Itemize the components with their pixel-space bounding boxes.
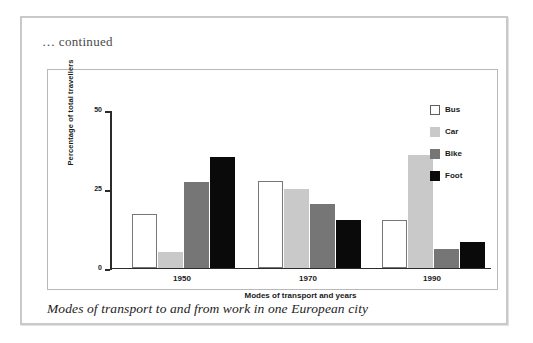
legend-swatch-foot-icon bbox=[430, 171, 440, 181]
bar-1950-bus bbox=[132, 214, 157, 268]
legend-item-bus: Bus bbox=[430, 103, 462, 116]
figure-plot-box: Percentage of total travellers 0 25 50 1… bbox=[47, 69, 498, 290]
bar-1970-car bbox=[284, 189, 309, 268]
y-tick-25: 25 bbox=[105, 190, 110, 192]
bar-1970-foot bbox=[336, 220, 361, 267]
y-tick-label-50: 50 bbox=[94, 106, 102, 113]
legend-swatch-bike-icon bbox=[430, 149, 440, 159]
legend-item-car: Car bbox=[430, 125, 462, 138]
bar-1990-bus bbox=[382, 220, 407, 267]
x-group-label-1990: 1990 bbox=[423, 274, 441, 283]
bar-1950-bike bbox=[184, 182, 209, 267]
bar-1990-foot bbox=[460, 242, 485, 267]
x-axis-line bbox=[110, 268, 491, 270]
y-tick-label-25: 25 bbox=[94, 185, 102, 192]
legend-swatch-car-icon bbox=[430, 127, 440, 137]
x-group-label-1970: 1970 bbox=[299, 274, 317, 283]
legend-item-bike: Bike bbox=[430, 147, 462, 160]
x-axis-title: Modes of transport and years bbox=[110, 291, 491, 300]
legend-item-foot: Foot bbox=[430, 169, 462, 182]
y-axis-line bbox=[110, 111, 112, 270]
legend-label-car: Car bbox=[445, 127, 458, 136]
bar-1950-car bbox=[158, 252, 183, 268]
page-frame: … continued Percentage of total travelle… bbox=[20, 16, 508, 325]
legend-swatch-bus-icon bbox=[430, 105, 440, 115]
figure-caption: Modes of transport to and from work in o… bbox=[47, 301, 368, 317]
legend-label-bus: Bus bbox=[445, 105, 460, 114]
chart-legend: Bus Car Bike Foot bbox=[430, 103, 462, 191]
x-group-label-1950: 1950 bbox=[173, 274, 191, 283]
bar-1950-foot bbox=[210, 157, 235, 268]
legend-label-bike: Bike bbox=[445, 149, 462, 158]
continued-note: … continued bbox=[42, 34, 113, 50]
legend-label-foot: Foot bbox=[445, 171, 462, 180]
y-tick-label-0: 0 bbox=[98, 264, 102, 271]
y-tick-50: 50 bbox=[105, 111, 110, 113]
bar-1970-bus bbox=[258, 181, 283, 268]
bar-1990-bike bbox=[434, 249, 459, 268]
bar-1970-bike bbox=[310, 204, 335, 267]
y-tick-0: 0 bbox=[105, 269, 110, 271]
y-axis-title: Percentage of total travellers bbox=[66, 43, 75, 183]
